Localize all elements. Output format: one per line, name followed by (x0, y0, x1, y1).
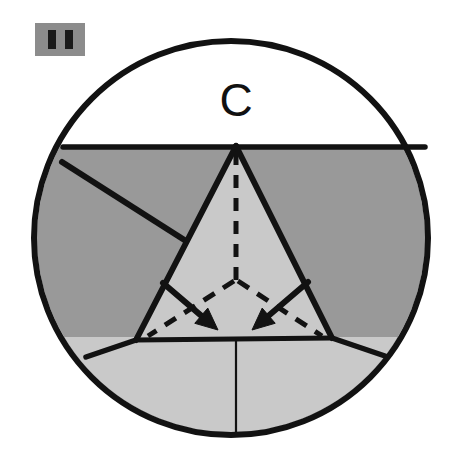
origami-step-diagram: C (0, 0, 458, 460)
pause-badge (35, 23, 85, 56)
pause-badge-background (35, 23, 85, 56)
step-label-c: C (219, 74, 252, 126)
triangle-base-edge (136, 338, 332, 340)
pause-badge-bar-right (65, 30, 73, 49)
figure-container: C (0, 0, 458, 460)
pause-badge-bar-left (48, 30, 56, 49)
